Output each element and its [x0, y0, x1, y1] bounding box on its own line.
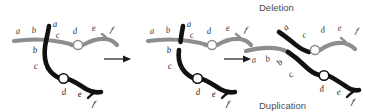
- gray-left-arm: [148, 40, 206, 46]
- panel-3-deletion-label-d: d: [320, 24, 327, 35]
- arrow-2-head: [243, 56, 251, 63]
- black-centromere: [193, 74, 203, 84]
- gray-centromere: [73, 40, 82, 49]
- panel-1-black-label-c: c: [33, 61, 38, 71]
- panel-2-gray-chromosome: [148, 34, 251, 50]
- panel-3-duplication-label-d: d: [319, 83, 326, 94]
- panel-1-black-label-d: d: [61, 87, 67, 97]
- panel-3-deletion-label-a: a: [281, 22, 291, 33]
- panel-3-duplication-label-a: a: [251, 54, 258, 65]
- panel-3-duplication-label-b1: b: [264, 53, 271, 64]
- panel-1-gray-label-a: a: [15, 26, 21, 36]
- panel-1-gray-label-d: d: [72, 26, 78, 36]
- panel-2-gray-label-c: c: [189, 30, 194, 40]
- panel-1-gray-label-c: c: [55, 30, 60, 40]
- panel-1-black-label-f: f: [91, 98, 98, 109]
- panel-2: a b c d e f a b c d e f: [148, 19, 251, 110]
- panel-2-gray-label-f: f: [243, 24, 250, 35]
- arrow-1-head: [123, 56, 131, 63]
- gray-centromere: [207, 40, 216, 49]
- duplication-centromere: [319, 71, 329, 81]
- arrow-2: [224, 56, 251, 63]
- panel-2-gray-label-d: d: [206, 26, 212, 36]
- panel-3-duplication-label-e: e: [336, 87, 341, 97]
- panel-1-black-label-a: a: [52, 19, 58, 29]
- black-upper-arm: [45, 26, 49, 68]
- duplication-telomere-tail: [347, 92, 353, 97]
- panel-1-gray-label-b: b: [31, 25, 37, 35]
- panel-2-black-label-a: a: [186, 19, 192, 29]
- gray-right-arm: [217, 39, 251, 45]
- black-centromere: [59, 74, 69, 84]
- panel-1-black-label-b: b: [32, 45, 38, 55]
- panel-2-gray-label-a: a: [149, 26, 155, 36]
- duplication-caption: Duplication: [259, 100, 306, 111]
- panel-1-black-label-e: e: [77, 89, 82, 99]
- panel-3-duplication-chromosome: [246, 48, 359, 97]
- crossing-over-diagram: a b c d e f a b c d e f: [0, 0, 365, 112]
- black-upper-fragment: [181, 26, 184, 42]
- panel-2-gray-label-e: e: [225, 23, 230, 33]
- panel-3-deletion-label-f: f: [354, 25, 361, 36]
- duplication-black-right-arm: [329, 76, 359, 90]
- panel-2-gray-label-b: b: [165, 25, 171, 35]
- duplication-black-arm: [288, 52, 319, 75]
- panel-1-gray-label-f: f: [109, 24, 116, 35]
- panel-3-deletion-label-c: c: [301, 29, 307, 40]
- arrow-1: [104, 56, 131, 63]
- gray-left-arm: [14, 40, 72, 46]
- deletion-gray-arm: [320, 43, 355, 50]
- deletion-centromere: [310, 45, 319, 54]
- panel-3: a c d e f a b b c d e f: [246, 22, 361, 107]
- black-telomere-tail: [88, 93, 94, 98]
- panel-2-black-chromosome-broken: [179, 26, 235, 98]
- black-lower-arm: [179, 50, 193, 78]
- gray-right-arm: [83, 39, 117, 45]
- panel-3-duplication-label-b2: b: [274, 57, 285, 68]
- panel-3-duplication-label-c: c: [285, 69, 295, 79]
- panel-1-black-chromosome: [45, 26, 101, 98]
- black-telomere-tail: [222, 93, 228, 98]
- panel-2-black-label-f: f: [225, 98, 232, 109]
- panel-1-gray-chromosome: [14, 34, 117, 50]
- panel-3-duplication-label-f: f: [350, 96, 357, 107]
- black-right-arm: [68, 79, 101, 92]
- panel-2-black-label-d: d: [195, 87, 201, 97]
- panel-1-gray-label-e: e: [91, 23, 96, 33]
- deletion-caption: Deletion: [259, 2, 294, 13]
- panel-2-black-label-c: c: [167, 61, 172, 71]
- panel-1: a b c d e f a b c d e f: [14, 19, 117, 110]
- panel-2-black-label-e: e: [211, 89, 216, 99]
- panel-2-black-label-b: b: [166, 45, 172, 55]
- black-lower-arm: [48, 68, 59, 78]
- black-right-arm: [202, 79, 235, 92]
- panel-3-deletion-label-e: e: [337, 23, 342, 33]
